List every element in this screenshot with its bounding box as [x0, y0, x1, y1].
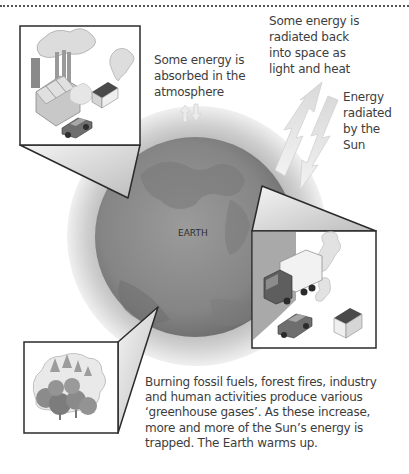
callout-transport: [252, 186, 376, 348]
caption-text: Burning fossil fuels, forest fires, indu…: [145, 375, 377, 451]
radiated-back-label: Some energy is radiated back into space …: [269, 13, 359, 77]
absorbed-energy-label: Some energy is absorbed in the atmospher…: [154, 52, 245, 100]
callout-industry: [20, 26, 140, 198]
earth-label: EARTH: [178, 228, 208, 238]
callout-forest-fire: [24, 307, 158, 433]
sun-energy-label: Energy radiated by the Sun: [343, 89, 392, 153]
